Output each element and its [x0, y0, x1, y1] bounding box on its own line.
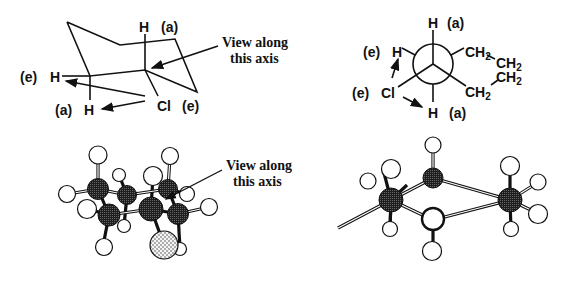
newman-labels: H (a) (e) H (e) Cl H (a) CH2 CH2 CH2 CH2	[352, 15, 522, 121]
arrow-cl-to-h-lower	[403, 97, 422, 107]
label-h-bottom: H	[428, 105, 438, 121]
label-h-left: H	[392, 44, 402, 60]
label-axial-bottom: (a)	[55, 102, 72, 118]
carbon-atom	[98, 204, 120, 226]
hydrogen-atom	[113, 169, 126, 182]
hydrogen-atom	[118, 220, 131, 233]
label-equatorial-cl: (e)	[352, 85, 369, 101]
carbon-atom	[168, 204, 189, 225]
label-h-axial-bottom: H	[84, 102, 94, 118]
hydrogen-atom	[89, 146, 107, 164]
rear-bond-upper-left	[402, 48, 415, 55]
hydrogen-atom	[382, 160, 401, 179]
label-equatorial-left: (e)	[20, 69, 37, 85]
hydrogen-atom	[501, 157, 520, 176]
rear-carbon-atom	[422, 208, 444, 230]
view-axis-line2: this axis	[230, 51, 279, 66]
label-axial-bottom: (a)	[449, 105, 466, 121]
hydrogen-atom	[96, 239, 113, 256]
carbon-atom	[498, 188, 522, 212]
label-h-equatorial: H	[50, 69, 60, 85]
hydrogen-atom	[144, 167, 163, 186]
carbon-atom	[118, 186, 137, 205]
label-ch2-4: CH2	[465, 84, 491, 102]
ball-and-stick-end-view	[338, 137, 548, 261]
hydrogen-atoms	[59, 146, 218, 256]
arrow-cl-to-h-ax	[102, 101, 145, 109]
label-ch2-1: CH2	[465, 44, 491, 62]
label-equatorial-h: (e)	[363, 44, 380, 60]
chair-conformation	[62, 22, 218, 109]
carbon-atom	[139, 197, 163, 221]
label-h-top: H	[428, 15, 438, 31]
hydrogen-atom	[360, 173, 376, 189]
label-cl: Cl	[381, 85, 395, 101]
hydrogen-atom	[383, 222, 398, 237]
arrow-cl-to-h-upper	[392, 59, 398, 78]
label-axial-top: (a)	[447, 15, 464, 31]
hydrogen-atom	[530, 174, 546, 190]
ball-and-stick-side-view: View along this axis	[59, 146, 292, 259]
carbon-atom	[379, 188, 403, 212]
chair-labels: H (a) (e) H (a) H Cl (e) View along this…	[20, 19, 288, 118]
chlorocyclohexane-conformation-diagram: H (a) (e) H (a) H Cl (e) View along this…	[0, 0, 571, 283]
chlorine-atom	[150, 231, 178, 259]
label-h-axial-top: H	[139, 19, 149, 35]
label-axial-top: (a)	[161, 19, 178, 35]
view-axis-line1: View along	[222, 35, 288, 50]
carbon-atom	[88, 179, 109, 200]
hydrogen-atom	[529, 205, 548, 224]
view-axis-line1: View along	[226, 158, 292, 173]
carbon-atom	[423, 168, 443, 188]
label-cl-equatorial: (e)	[182, 98, 199, 114]
carbon-atom	[159, 180, 178, 199]
hydrogen-atom	[201, 199, 218, 216]
hydrogen-atom	[423, 242, 442, 261]
arrow-cl-to-h-eq	[66, 81, 145, 96]
label-chlorine: Cl	[157, 98, 171, 114]
hydrogen-atom	[504, 222, 519, 237]
hydrogen-atom	[425, 137, 441, 153]
hydrogen-atom	[59, 186, 76, 203]
view-axis-line2: this axis	[233, 174, 282, 189]
rear-bond-upper-right	[451, 48, 464, 55]
hydrogen-atom	[162, 148, 179, 165]
hydrogen-atom	[78, 200, 97, 219]
